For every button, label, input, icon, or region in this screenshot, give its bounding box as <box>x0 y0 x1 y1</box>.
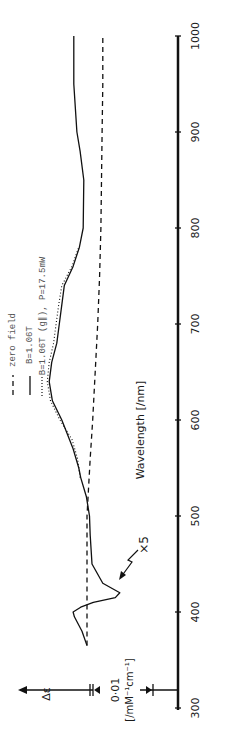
x-tick-label: 600 <box>189 410 202 431</box>
series-layer <box>47 36 120 646</box>
y-axis-title: Δε <box>40 687 53 700</box>
x-tick-label: 1000 <box>189 22 202 50</box>
series-line-solid <box>49 36 120 646</box>
scale-value: 0·01 <box>109 678 122 703</box>
legend-label-field: B=1.06T <box>25 326 35 364</box>
legend-label-field-power: B=1.06T (g∥), P=17.5mW <box>37 257 48 375</box>
legend-label-zero-field: zero field <box>8 313 18 367</box>
chart-canvas <box>0 0 225 739</box>
x-tick-label: 800 <box>189 218 202 239</box>
x-axis-title: Wavelength [/nm] <box>134 381 147 480</box>
x-tick-label: 500 <box>189 506 202 527</box>
x-tick-label: 400 <box>189 602 202 623</box>
x-tick-label: 700 <box>189 314 202 335</box>
arrow-head-icon <box>18 686 27 694</box>
x5-arrow <box>121 550 138 577</box>
x-tick-label: 300 <box>189 698 202 719</box>
legend <box>13 375 42 396</box>
multiplier-annotation: ×5 <box>137 536 151 554</box>
x-tick-label: 900 <box>189 122 202 143</box>
series-line-dashed <box>87 36 103 646</box>
scale-unit: [/mM⁻¹cm⁻¹] <box>124 658 135 721</box>
